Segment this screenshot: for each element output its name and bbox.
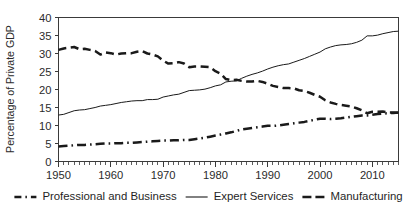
- plot-border: [59, 18, 399, 162]
- y-tick-label: 30: [39, 48, 51, 60]
- x-tick-label: 1990: [255, 169, 280, 181]
- x-tick-label: 2010: [360, 169, 385, 181]
- legend-label-manufacturing: Manufacturing: [330, 190, 402, 202]
- y-tick-label: 35: [39, 30, 51, 42]
- y-tick-label: 5: [45, 138, 51, 150]
- y-tick-label: 25: [39, 66, 51, 78]
- y-tick-label: 15: [39, 102, 51, 114]
- x-tick-label: 1980: [203, 169, 228, 181]
- line-chart: Percentage of Private GDP 05101520253035…: [0, 0, 417, 214]
- legend-label-expert-services: Expert Services: [214, 190, 294, 202]
- x-axis-ticks: 1950196019701980199020002010: [46, 162, 385, 181]
- y-tick-label: 0: [45, 156, 51, 168]
- y-tick-label: 10: [39, 120, 51, 132]
- chart-legend: Professional and BusinessExpert Services…: [14, 190, 402, 202]
- x-tick-label: 1970: [151, 169, 176, 181]
- y-tick-label: 20: [39, 84, 51, 96]
- y-axis-title-group: Percentage of Private GDP: [4, 25, 16, 153]
- series-line-expert-services: [59, 31, 399, 115]
- chart-figure: Percentage of Private GDP 05101520253035…: [0, 0, 417, 214]
- series-lines: [59, 31, 399, 146]
- x-tick-label: 2000: [308, 169, 333, 181]
- x-tick-label: 1960: [98, 169, 123, 181]
- series-line-professional-and-business: [59, 113, 399, 147]
- plot-frame: [59, 18, 399, 162]
- y-axis-title: Percentage of Private GDP: [4, 25, 16, 153]
- legend-label-professional-and-business: Professional and Business: [42, 190, 177, 202]
- y-tick-label: 40: [39, 12, 51, 24]
- y-axis-ticks: 0510152025303540: [39, 12, 58, 168]
- x-tick-label: 1950: [46, 169, 71, 181]
- series-line-manufacturing: [59, 47, 399, 113]
